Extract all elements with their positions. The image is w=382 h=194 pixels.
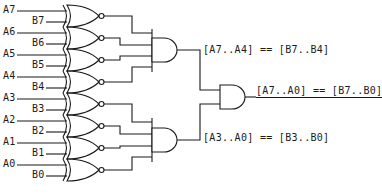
label-upper-equality: [A7..A4] == [B7..B4] — [203, 45, 329, 55]
input-label-b6: B6 — [32, 38, 45, 48]
input-label-b5: B5 — [32, 60, 45, 70]
xnor-gate-2 — [67, 115, 99, 137]
xnor-gate-6 — [67, 27, 99, 49]
input-label-a7: A7 — [3, 5, 16, 15]
xnor-extra-curve — [63, 5, 67, 27]
xnor-extra-curve — [63, 115, 67, 137]
input-label-b2: B2 — [32, 126, 45, 136]
input-label-a4: A4 — [3, 71, 16, 81]
xnor-extra-curve — [63, 27, 67, 49]
inversion-bubble-icon — [99, 102, 104, 107]
wire-xnor2-to-and — [104, 126, 152, 134]
input-label-b1: B1 — [32, 148, 45, 158]
xnor-gate-7 — [67, 5, 99, 27]
wire-xnor5-to-and — [104, 56, 152, 60]
inversion-bubble-icon — [99, 80, 104, 85]
input-label-a6: A6 — [3, 27, 16, 37]
label-lower-equality: [A3..A0] == [B3..B0] — [203, 133, 329, 143]
input-label-a5: A5 — [3, 49, 16, 59]
inversion-bubble-icon — [99, 146, 104, 151]
input-label-b7: B7 — [32, 16, 45, 26]
inversion-bubble-icon — [99, 36, 104, 41]
input-label-a3: A3 — [3, 93, 16, 103]
wire-xnor0-to-and — [104, 157, 152, 170]
wire-xnor7-to-and — [104, 16, 152, 33]
xnor-extra-curve — [63, 93, 67, 115]
inversion-bubble-icon — [99, 168, 104, 173]
and-gate-final — [220, 85, 245, 109]
xnor-gate-0 — [67, 159, 99, 181]
inversion-bubble-icon — [99, 124, 104, 129]
input-label-b0: B0 — [32, 170, 45, 180]
and-gate-upper — [152, 38, 177, 62]
xnor-extra-curve — [63, 159, 67, 181]
input-label-a2: A2 — [3, 115, 16, 125]
xnor-gate-4 — [67, 71, 99, 93]
xnor-extra-curve — [63, 71, 67, 93]
wire-xnor3-to-and — [104, 104, 152, 122]
xnor-gate-1 — [67, 137, 99, 159]
input-label-b4: B4 — [32, 82, 45, 92]
inversion-bubble-icon — [99, 58, 104, 63]
xnor-gate-3 — [67, 93, 99, 115]
and-gate-lower — [152, 128, 177, 152]
wire-xnor6-to-and — [104, 38, 152, 45]
input-label-a0: A0 — [3, 159, 16, 169]
xnor-gate-5 — [67, 49, 99, 71]
wire-xnor4-to-and — [104, 67, 152, 82]
wire-upper-to-final — [177, 50, 220, 90]
input-label-b3: B3 — [32, 104, 45, 114]
input-label-a1: A1 — [3, 137, 16, 147]
wire-xnor1-to-and — [104, 146, 152, 148]
inversion-bubble-icon — [99, 14, 104, 19]
xnor-extra-curve — [63, 49, 67, 71]
xnor-extra-curve — [63, 137, 67, 159]
label-final-equality: [A7..A0] == [B7..B0] — [256, 86, 382, 98]
